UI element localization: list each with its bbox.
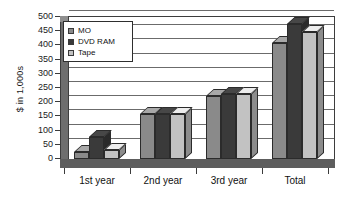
y-tick-label: 0 [27, 154, 53, 163]
y-tick-mark [55, 130, 60, 131]
bar-group [206, 16, 261, 159]
y-tick-mark [55, 115, 60, 116]
y-tick-label: 50 [27, 140, 53, 149]
legend: MODVD RAMTape [63, 21, 133, 62]
bar-chart: $ in 1,000s 0501001502002503003504004505… [0, 0, 348, 204]
legend-label: DVD RAM [78, 37, 115, 46]
legend-label: Tape [78, 48, 95, 57]
y-tick-mark [55, 73, 60, 74]
legend-swatch-icon [68, 28, 74, 34]
y-tick-mark [55, 16, 60, 17]
bar-front-face [236, 94, 251, 159]
legend-item[interactable]: DVD RAM [68, 36, 128, 47]
bar-front-face [272, 43, 287, 159]
x-tick-mark [328, 168, 329, 174]
y-tick-mark [55, 30, 60, 31]
y-tick-mark [55, 59, 60, 60]
y-axis-title: $ in 1,000s [15, 49, 25, 129]
bar-side-face [251, 87, 258, 159]
y-tick-mark [55, 158, 60, 159]
legend-swatch-icon [68, 50, 74, 56]
bar[interactable] [170, 107, 185, 159]
x-tick-label: 2nd year [130, 175, 196, 186]
bar[interactable] [206, 89, 221, 159]
bar[interactable] [104, 143, 119, 159]
bar[interactable] [287, 17, 302, 159]
bar-side-face [185, 108, 192, 159]
bar[interactable] [302, 25, 317, 159]
bar-front-face [104, 150, 119, 159]
bar-front-face [140, 114, 155, 159]
legend-item[interactable]: MO [68, 25, 128, 36]
y-tick-mark [55, 44, 60, 45]
x-tick-mark [130, 168, 131, 174]
bar-front-face [221, 94, 236, 159]
y-tick-mark [55, 87, 60, 88]
bar[interactable] [272, 36, 287, 159]
bar-front-face [155, 114, 170, 159]
bar-group [140, 16, 195, 159]
bar-front-face [170, 114, 185, 159]
bar[interactable] [74, 145, 89, 159]
y-tick-label: 250 [27, 83, 53, 92]
bar-front-face [287, 24, 302, 159]
x-tick-mark [196, 168, 197, 174]
bar-group [272, 16, 327, 159]
y-tick-label: 400 [27, 40, 53, 49]
y-tick-label: 200 [27, 97, 53, 106]
x-axis: 1st year2nd year3rd yearTotal [60, 168, 342, 204]
x-tick-label: 1st year [64, 175, 130, 186]
legend-label: MO [78, 26, 91, 35]
bar-front-face [302, 32, 317, 159]
bar-front-face [206, 96, 221, 159]
y-tick-mark [55, 144, 60, 145]
legend-item[interactable]: Tape [68, 47, 128, 58]
y-tick-mark [55, 101, 60, 102]
y-tick-label: 500 [27, 12, 53, 21]
y-tick-label: 350 [27, 55, 53, 64]
bar-front-face [89, 137, 104, 159]
bar-front-face [74, 152, 89, 159]
bar[interactable] [89, 130, 104, 159]
bar[interactable] [140, 107, 155, 159]
x-tick-mark [64, 168, 65, 174]
y-axis-tick-labels: 050100150200250300350400450500 [26, 0, 53, 204]
bar[interactable] [236, 87, 251, 159]
bar[interactable] [221, 87, 236, 159]
y-tick-label: 450 [27, 26, 53, 35]
y-tick-label: 150 [27, 111, 53, 120]
bar-side-face [317, 26, 324, 159]
x-tick-label: 3rd year [196, 175, 262, 186]
gridline [69, 10, 334, 11]
x-tick-mark [262, 168, 263, 174]
y-tick-label: 300 [27, 69, 53, 78]
bar[interactable] [155, 107, 170, 159]
y-tick-label: 100 [27, 126, 53, 135]
legend-swatch-icon [68, 39, 74, 45]
x-tick-label: Total [262, 175, 328, 186]
